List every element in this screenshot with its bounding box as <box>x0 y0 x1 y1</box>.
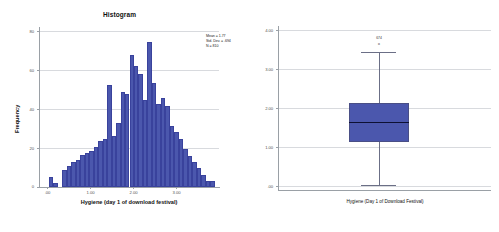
bp-ytick-mark-3 <box>276 69 279 70</box>
ytick-mark-20 <box>37 148 40 149</box>
histogram-panel: Histogram Frequency 80 60 40 20 0 .00 1.… <box>0 0 250 232</box>
ytick-label-40: 40 <box>22 107 34 112</box>
xtick-label-0: .00 <box>39 190 56 195</box>
bp-gridline-1 <box>278 147 491 148</box>
boxplot-outlier-label: 674 <box>369 36 389 40</box>
bp-ytick-label-1: 1.00 <box>258 145 273 150</box>
spss-output-page: Histogram Frequency 80 60 40 20 0 .00 1.… <box>0 0 499 232</box>
boxplot-lower-whisker <box>379 142 380 185</box>
bp-ytick-mark-4 <box>276 30 279 31</box>
histogram-y-axis-title: Frequency <box>14 105 20 133</box>
boxplot-x-axis-title: Hygiene (Day 1 of Download Festival) <box>304 199 466 204</box>
boxplot-panel: 4.00 3.00 2.00 1.00 .00 674 o Hygiene (D… <box>250 0 499 232</box>
boxplot-outlier-marker: o <box>369 42 389 46</box>
ytick-label-20: 20 <box>22 146 34 151</box>
histogram-bar <box>53 183 57 187</box>
boxplot-lower-cap <box>361 185 396 186</box>
ytick-mark-80 <box>37 31 40 32</box>
bp-gridline-4 <box>278 30 491 31</box>
boxplot-upper-cap <box>361 52 396 53</box>
xtick-label-3: 3.00 <box>168 190 185 195</box>
histogram-title: Histogram <box>103 11 136 18</box>
boxplot-upper-whisker <box>379 52 380 103</box>
bp-ytick-label-3: 3.00 <box>258 67 273 72</box>
bp-gridline-3 <box>278 69 491 70</box>
boxplot-median-line <box>349 122 409 124</box>
histogram-bar <box>210 181 214 187</box>
xtick-label-2: 2.00 <box>125 190 142 195</box>
bp-ytick-mark-1 <box>276 147 279 148</box>
ytick-mark-0 <box>37 187 40 188</box>
bp-gridline-0 <box>278 186 491 187</box>
ytick-label-0: 0 <box>22 184 34 189</box>
bp-ytick-mark-0 <box>276 186 279 187</box>
histogram-x-axis <box>39 187 220 188</box>
bp-ytick-label-4: 4.00 <box>258 28 273 33</box>
bp-ytick-label-2: 2.00 <box>258 106 273 111</box>
ytick-label-60: 60 <box>22 68 34 73</box>
bp-ytick-mark-2 <box>276 108 279 109</box>
ytick-mark-60 <box>37 70 40 71</box>
histogram-stats-annotation: Mean = 1.77 Std. Dev. = .694 N = 810 <box>206 34 231 50</box>
boxplot-x-axis <box>278 190 491 191</box>
boxplot-y-axis <box>278 26 279 190</box>
histogram-bars <box>40 27 219 187</box>
ytick-label-80: 80 <box>22 29 34 34</box>
histogram-x-axis-title: Hygiene (day 1 of download festival) <box>33 199 225 205</box>
bp-ytick-label-0: .00 <box>258 184 273 189</box>
stat-n: N = 810 <box>206 44 231 49</box>
xtick-label-1: 1.00 <box>82 190 99 195</box>
ytick-mark-40 <box>37 109 40 110</box>
